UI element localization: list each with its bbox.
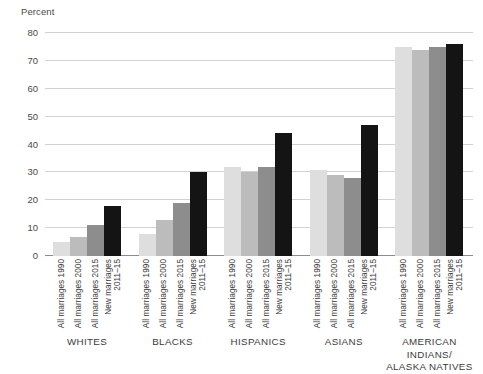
group-caption: BLACKS [125, 336, 221, 349]
bar [344, 178, 361, 256]
bar [104, 206, 121, 256]
bar [258, 167, 275, 256]
bar-group [139, 33, 207, 256]
x-tick-label: All marriages 2015 [258, 259, 275, 331]
x-tick-label-text: New marriages2011–15 [103, 259, 122, 315]
x-tick-label-text: New marriages2011–15 [445, 259, 464, 315]
x-tick-label: All marriages 2000 [156, 259, 173, 331]
bar [190, 172, 207, 256]
x-tick-label: All marriages 2000 [412, 259, 429, 331]
bar [87, 225, 104, 256]
y-tick-label-20: 20 [27, 194, 38, 205]
x-tick-label-text: New marriages2011–15 [274, 259, 293, 315]
x-tick-label-text: All marriages 2000 [245, 259, 254, 328]
bar [395, 47, 412, 256]
x-tick-label: All marriages 2015 [173, 259, 190, 331]
x-tick-label: All marriages 1990 [53, 259, 70, 331]
x-tick-label-text: All marriages 2015 [348, 259, 357, 328]
x-tick-label: All marriages 1990 [139, 259, 156, 331]
x-tick-label: New marriages2011–15 [361, 259, 378, 331]
x-tick-label: All marriages 2000 [70, 259, 87, 331]
bar [70, 237, 87, 257]
x-tick-label-text: All marriages 2015 [433, 259, 442, 328]
x-tick-label-text: All marriages 1990 [314, 259, 323, 328]
x-tick-label: All marriages 1990 [310, 259, 327, 331]
x-tick-label-text: All marriages 2015 [262, 259, 271, 328]
y-tick-label-40: 40 [27, 138, 38, 149]
x-tick-label: All marriages 2015 [87, 259, 104, 331]
x-tick-label: All marriages 2015 [429, 259, 446, 331]
x-tick-label: New marriages2011–15 [104, 259, 121, 331]
y-tick-label-50: 50 [27, 110, 38, 121]
x-tick-label-text: New marriages2011–15 [360, 259, 379, 315]
x-tick-label-text: All marriages 1990 [142, 259, 151, 328]
y-tick-label-80: 80 [27, 27, 38, 38]
bar [327, 175, 344, 256]
x-tick-label: All marriages 1990 [395, 259, 412, 331]
plot-area: 01020304050607080 [45, 33, 473, 256]
x-tick-label: All marriages 2000 [327, 259, 344, 331]
x-tick-label: New marriages2011–15 [190, 259, 207, 331]
group-caption: WHITES [39, 336, 135, 349]
x-tick-label-text: All marriages 2015 [176, 259, 185, 328]
y-axis-title: Percent [21, 6, 54, 17]
group-caption: AMERICAN INDIANS/ ALASKA NATIVES [381, 336, 477, 374]
y-tick-label-30: 30 [27, 166, 38, 177]
group-caption: HISPANICS [210, 336, 306, 349]
x-tick-label-text: All marriages 1990 [228, 259, 237, 328]
x-tick-label-text: All marriages 1990 [399, 259, 408, 328]
bar [446, 44, 463, 256]
x-tick-label-text: All marriages 2000 [416, 259, 425, 328]
x-tick-label-text: All marriages 2000 [74, 259, 83, 328]
x-axis-group-captions: WHITESBLACKSHISPANICSASIANSAMERICAN INDI… [45, 336, 473, 366]
x-tick-label: All marriages 2000 [241, 259, 258, 331]
y-tick-label-60: 60 [27, 82, 38, 93]
bar-group [53, 33, 121, 256]
bar [310, 170, 327, 256]
bar [361, 125, 378, 256]
bar [412, 50, 429, 256]
x-tick-label-text: New marriages2011–15 [189, 259, 208, 315]
x-tick-label: All marriages 2015 [344, 259, 361, 331]
y-tick-label-70: 70 [27, 54, 38, 65]
bar [156, 220, 173, 256]
bar [275, 133, 292, 256]
y-tick-label-10: 10 [27, 222, 38, 233]
bar [224, 167, 241, 256]
x-tick-label-text: All marriages 2015 [91, 259, 100, 328]
x-tick-label-text: All marriages 2000 [331, 259, 340, 328]
bar [241, 172, 258, 256]
x-axis-tick-labels: All marriages 1990All marriages 2000All … [45, 259, 473, 331]
y-tick-label-0: 0 [33, 250, 38, 261]
x-tick-label-text: All marriages 2000 [159, 259, 168, 328]
x-tick-label: New marriages2011–15 [275, 259, 292, 331]
x-tick-label: New marriages2011–15 [446, 259, 463, 331]
bar-group [395, 33, 463, 256]
bar [173, 203, 190, 256]
bar [53, 242, 70, 256]
bar [139, 234, 156, 256]
group-caption: ASIANS [296, 336, 392, 349]
x-tick-label-text: All marriages 1990 [57, 259, 66, 328]
bar [429, 47, 446, 256]
bar-group [310, 33, 378, 256]
bar-groups [45, 33, 473, 256]
bar-group [224, 33, 292, 256]
x-tick-label: All marriages 1990 [224, 259, 241, 331]
